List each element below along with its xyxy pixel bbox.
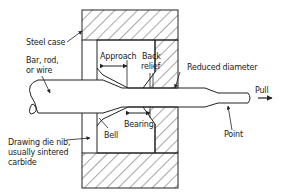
label-die-nib-3: carbide	[8, 158, 37, 167]
label-die-nib: Drawing die nib,	[8, 138, 70, 147]
label-die-nib-2: usually sintered	[8, 148, 68, 157]
label-point: Point	[224, 130, 243, 139]
label-bell: Bell	[104, 131, 118, 140]
label-pull: Pull	[255, 86, 268, 95]
wire	[30, 80, 251, 114]
diagram-drawing	[0, 0, 282, 195]
label-back-relief-2: relief	[141, 62, 160, 71]
steel-case	[82, 10, 178, 188]
label-steel-case: Steel case	[26, 38, 65, 47]
label-reduced-diameter: Reduced diameter	[187, 63, 257, 72]
label-bar-rod-wire-2: or wire	[26, 66, 52, 75]
label-bearing: Bearing	[124, 120, 154, 129]
label-bar-rod-wire: Bar, rod,	[26, 56, 59, 65]
label-approach: Approach	[100, 52, 136, 61]
label-back-relief: Back	[142, 52, 161, 61]
